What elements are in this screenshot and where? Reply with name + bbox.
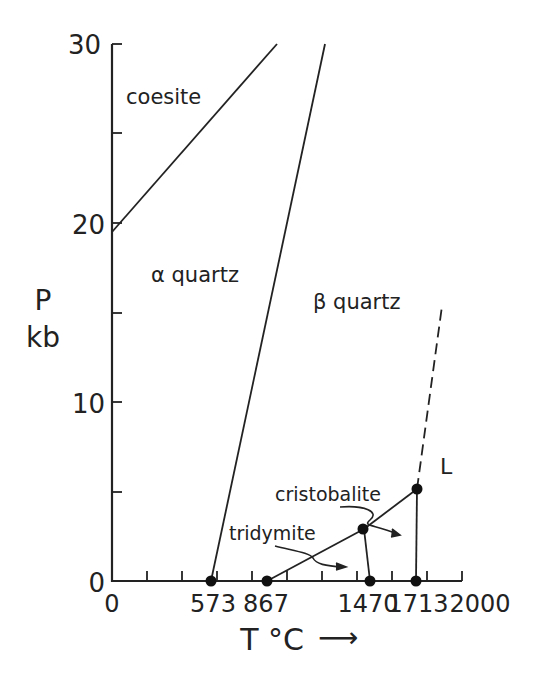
point-867 (262, 576, 273, 587)
point-1470 (365, 576, 376, 587)
y-label-10: 10 (72, 389, 105, 419)
region-label-tridymite: tridymite (229, 522, 316, 544)
region-label-cristobalite: cristobalite (275, 483, 381, 505)
x-axis-arrow-icon: ⟶ (318, 621, 358, 654)
y-axis-title-p: P (35, 284, 52, 317)
y-axis-title-kb: kb (26, 321, 60, 354)
y-label-20: 20 (72, 210, 105, 240)
phase-diagram: 30 20 10 0 P kb 0 573 867 1470 1713 2000… (0, 0, 551, 685)
cristobalite-arrowhead (391, 529, 400, 537)
y-label-30: 30 (68, 30, 101, 60)
x-label-1713: 1713 (387, 590, 448, 618)
x-axis-title: T °C (239, 622, 304, 657)
x-label-867: 867 (243, 590, 289, 618)
tridymite-arrow (275, 546, 343, 567)
region-label-alpha-quartz: α quartz (151, 263, 239, 287)
triple-point-cristobalite-quartz-liquid (412, 484, 423, 495)
point-573 (206, 576, 217, 587)
quartz-liquid-boundary-dashed (417, 306, 442, 489)
coesite-quartz-boundary (112, 44, 277, 232)
triple-point-tridymite-cristobalite-quartz (358, 524, 369, 535)
y-ticks (112, 44, 122, 492)
y-label-0: 0 (88, 568, 105, 598)
x-label-0: 0 (104, 590, 119, 618)
cristobalite-liquid-boundary (416, 489, 417, 581)
x-label-2000: 2000 (449, 590, 510, 618)
region-label-beta-quartz: β quartz (313, 290, 400, 314)
region-label-liquid: L (440, 454, 453, 479)
tridymite-cristobalite-boundary (364, 529, 370, 581)
x-label-573: 573 (190, 590, 236, 618)
tridymite-arrowhead (336, 563, 346, 570)
region-label-coesite: coesite (126, 85, 201, 109)
point-1713 (411, 576, 422, 587)
